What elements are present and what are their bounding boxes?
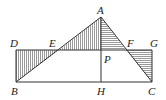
label-c: C	[148, 85, 156, 97]
label-d: D	[9, 37, 18, 49]
label-a: A	[96, 4, 104, 16]
label-f: F	[126, 37, 134, 49]
label-p: P	[103, 53, 111, 65]
label-h: H	[96, 85, 106, 97]
label-e: E	[48, 37, 56, 49]
label-b: B	[11, 85, 18, 97]
label-g: G	[150, 37, 158, 49]
geometry-figure: A B C D E F G H P	[0, 0, 166, 100]
